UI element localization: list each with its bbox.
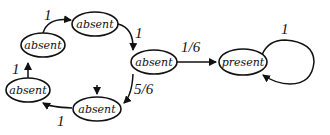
edge-n3-n4: 5/6 <box>124 74 154 103</box>
svg-text:absent: absent <box>135 56 173 69</box>
edge-n2-n3: 1 <box>118 24 143 50</box>
node-absent-5: absent <box>6 78 50 102</box>
svg-text:absent: absent <box>76 18 114 31</box>
svg-text:absent: absent <box>24 39 62 52</box>
edge-n1-n2: 1 <box>43 7 71 33</box>
svg-text:1: 1 <box>57 113 65 129</box>
node-absent-4: absent <box>73 97 121 121</box>
node-present: present <box>219 49 267 75</box>
node-absent-1: absent <box>21 33 65 57</box>
svg-text:absent: absent <box>9 84 47 97</box>
svg-text:1: 1 <box>44 7 52 23</box>
node-absent-3: absent <box>131 50 177 74</box>
edge-n4-n5: 1 <box>43 103 72 129</box>
svg-text:1: 1 <box>281 21 289 37</box>
edge-n6-self: 1 <box>262 21 314 84</box>
node-absent-2: absent <box>72 12 118 36</box>
edge-n5-n1: 1 <box>12 61 28 78</box>
svg-text:1/6: 1/6 <box>181 39 201 55</box>
svg-text:5/6: 5/6 <box>134 81 154 97</box>
svg-text:present: present <box>222 56 265 69</box>
state-diagram: 1 1 1/6 5/6 1 1 1 absent absent absent <box>0 0 330 135</box>
svg-text:absent: absent <box>78 103 116 116</box>
svg-text:1: 1 <box>12 61 20 77</box>
edge-n3-n6: 1/6 <box>177 39 216 62</box>
svg-text:1: 1 <box>135 25 143 41</box>
